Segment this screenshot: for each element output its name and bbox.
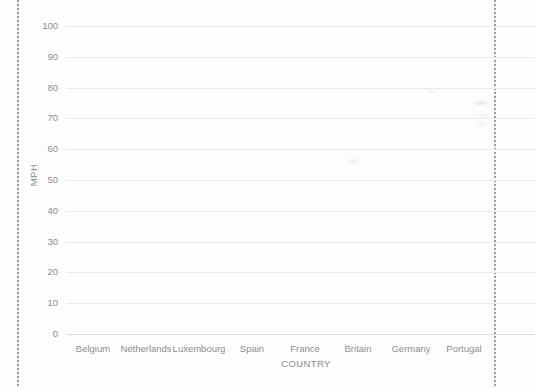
y-gridline: [66, 57, 535, 58]
y-gridline: [66, 26, 535, 27]
y-gridline: [66, 149, 535, 150]
scan-smudge: [348, 159, 358, 163]
y-gridline: [66, 180, 535, 181]
y-tick-label: 10: [28, 297, 58, 309]
y-tick-label: 100: [28, 20, 58, 32]
y-tick-label: 40: [28, 205, 58, 217]
plot-area: 1009080706050403020100BelgiumNetherlands…: [0, 0, 535, 388]
y-gridline: [66, 242, 535, 243]
scan-smudge: [479, 114, 488, 117]
y-tick-label: 70: [28, 112, 58, 124]
y-tick-label: 90: [28, 51, 58, 63]
y-gridline: [66, 303, 535, 304]
x-axis-title: COUNTRY: [266, 358, 346, 369]
y-gridline: [66, 272, 535, 273]
y-tick-label: 0: [28, 328, 58, 340]
y-gridline: [66, 88, 535, 89]
x-category-label: Portugal: [422, 343, 506, 355]
y-gridline: [66, 211, 535, 212]
y-tick-label: 80: [28, 82, 58, 94]
y-tick-label: 60: [28, 143, 58, 155]
scan-smudge: [428, 89, 433, 93]
y-tick-label: 20: [28, 266, 58, 278]
y-gridline: [66, 334, 535, 335]
y-tick-label: 30: [28, 236, 58, 248]
y-axis-title: MPH: [28, 164, 39, 187]
scan-smudge: [477, 123, 485, 126]
scanned-chart-page: 1009080706050403020100BelgiumNetherlands…: [0, 0, 535, 388]
y-gridline: [66, 118, 535, 119]
